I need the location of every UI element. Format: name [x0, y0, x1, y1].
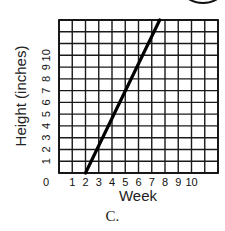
y-tick-label: 2 [40, 146, 52, 152]
x-tick-label: 4 [109, 176, 115, 188]
y-tick-label: 9 [40, 64, 52, 70]
y-tick-label: 7 [40, 88, 52, 94]
chart-grid [59, 20, 218, 173]
x-tick-label: 3 [96, 176, 102, 188]
x-tick-label: 2 [82, 176, 88, 188]
x-tick-label: 10 [185, 176, 197, 188]
y-tick-label: 4 [40, 123, 52, 129]
x-axis-title: Week [119, 187, 158, 204]
y-tick-label: 8 [40, 76, 52, 82]
y-tick-label: 1 [40, 158, 52, 164]
y-axis-ticks: 12345678910 [40, 49, 52, 164]
y-axis-title: Height (inches) [12, 46, 29, 147]
x-tick-label: 8 [162, 176, 168, 188]
y-tick-label: 6 [40, 99, 52, 105]
line-chart: 012345678910 12345678910 Week Height (in… [0, 0, 225, 231]
x-tick-label: 1 [69, 176, 75, 188]
figure-caption: C. [0, 208, 225, 225]
y-tick-label: 10 [40, 49, 52, 61]
y-tick-label: 3 [40, 135, 52, 141]
y-tick-label: 5 [40, 111, 52, 117]
x-tick-label: 9 [175, 176, 181, 188]
x-tick-label: 0 [43, 176, 49, 188]
